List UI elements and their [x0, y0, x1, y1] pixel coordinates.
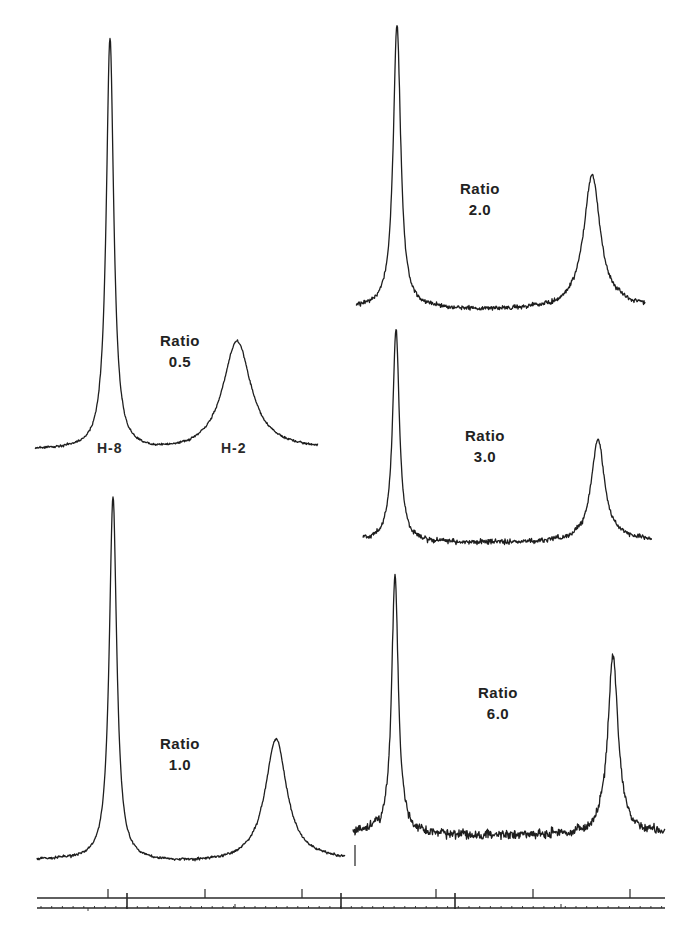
spectra-group	[35, 26, 665, 866]
ratio-word: Ratio	[450, 178, 510, 199]
ratio-word: Ratio	[150, 733, 210, 754]
ratio-word: Ratio	[468, 682, 528, 703]
ratio-label-0.5: Ratio 0.5	[150, 330, 210, 372]
ratio-label-6.0: Ratio 6.0	[468, 682, 528, 724]
ratio-label-3.0: Ratio 3.0	[455, 425, 515, 467]
spectrum-trace-ratio-2.0	[356, 26, 645, 311]
ratio-label-1.0: Ratio 1.0	[150, 733, 210, 775]
peak-label-h2: H-2	[221, 440, 247, 456]
ppm-axis-scale	[37, 889, 665, 911]
spectrum-trace-ratio-0.5	[35, 39, 318, 449]
ratio-value: 2.0	[450, 199, 510, 220]
ratio-value: 3.0	[455, 446, 515, 467]
nmr-spectra-figure	[0, 0, 696, 937]
ratio-label-2.0: Ratio 2.0	[450, 178, 510, 220]
ratio-value: 1.0	[150, 754, 210, 775]
peak-label-h8: H-8	[97, 440, 123, 456]
ratio-word: Ratio	[455, 425, 515, 446]
ratio-word: Ratio	[150, 330, 210, 351]
spectrum-trace-ratio-1.0	[37, 497, 345, 861]
ratio-value: 0.5	[150, 351, 210, 372]
ratio-value: 6.0	[468, 703, 528, 724]
